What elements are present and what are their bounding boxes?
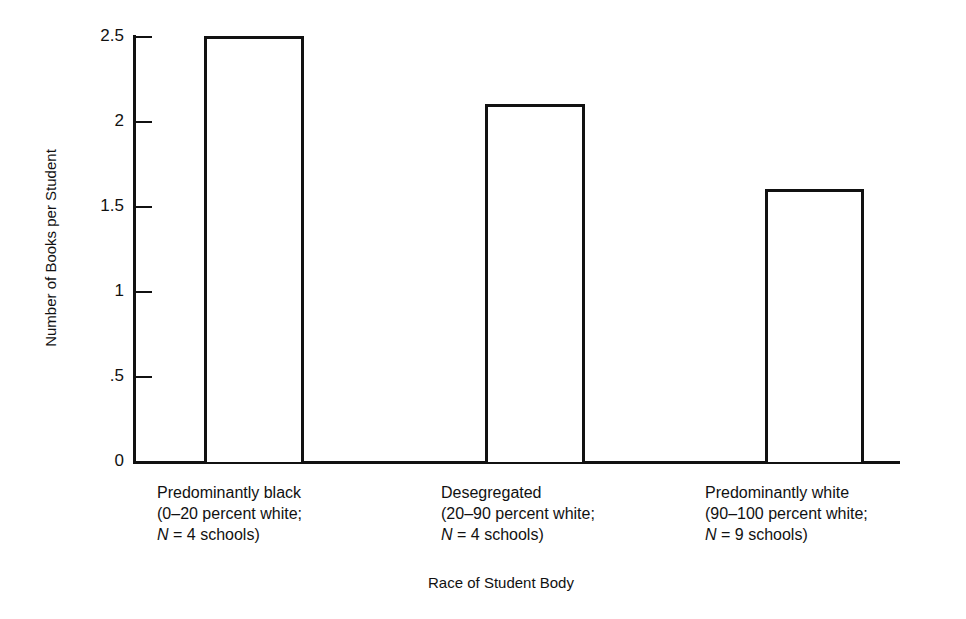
y-tick-label: 2: [74, 111, 124, 131]
category-label-desegregated: Desegregated (20–90 percent white; N = 4…: [441, 482, 595, 545]
y-tick: [136, 376, 152, 378]
y-tick: [136, 121, 152, 123]
category-label-predominantly-white: Predominantly white (90–100 percent whit…: [705, 482, 868, 545]
x-axis-label: Race of Student Body: [0, 574, 966, 591]
category-count: N = 4 schools): [441, 524, 595, 545]
count-text: = 9 schools): [717, 526, 808, 543]
category-title: Predominantly black: [157, 482, 302, 503]
y-axis-label: Number of Books per Student: [42, 149, 59, 347]
y-tick-label: 0: [74, 451, 124, 471]
category-count: N = 9 schools): [705, 524, 868, 545]
category-title: Predominantly white: [705, 482, 868, 503]
y-tick: [136, 291, 152, 293]
y-tick: [136, 206, 152, 208]
n-symbol: N: [705, 526, 717, 543]
y-tick-label: 2.5: [74, 26, 124, 46]
category-range: (20–90 percent white;: [441, 503, 595, 524]
count-text: = 4 schools): [453, 526, 544, 543]
n-symbol: N: [157, 526, 169, 543]
count-text: = 4 schools): [169, 526, 260, 543]
y-tick-label: .5: [74, 366, 124, 386]
bar-predominantly-black: [204, 36, 304, 462]
bar-predominantly-white: [765, 189, 864, 462]
category-range: (0–20 percent white;: [157, 503, 302, 524]
n-symbol: N: [441, 526, 453, 543]
category-count: N = 4 schools): [157, 524, 302, 545]
category-range: (90–100 percent white;: [705, 503, 868, 524]
y-tick: [136, 36, 152, 38]
bar-chart: Number of Books per Student 2.5 2 1.5 1 …: [0, 0, 966, 619]
category-title: Desegregated: [441, 482, 595, 503]
bar-desegregated: [485, 104, 585, 462]
category-label-predominantly-black: Predominantly black (0–20 percent white;…: [157, 482, 302, 545]
y-tick-label: 1: [74, 281, 124, 301]
y-axis: [133, 35, 136, 464]
y-tick-label: 1.5: [74, 196, 124, 216]
